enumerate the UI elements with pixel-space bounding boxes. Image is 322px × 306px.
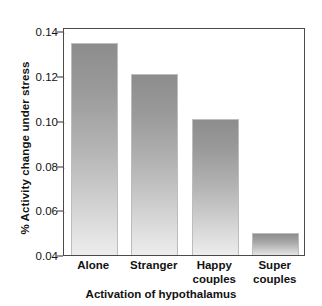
x-axis-title: Activation of hypothalamus (0, 288, 322, 300)
x-tick-label-line: Stranger (124, 259, 185, 273)
y-tick-mark (57, 166, 63, 167)
y-tick-mark (57, 32, 63, 33)
y-tick-label: 0.04 (20, 250, 58, 262)
y-tick-mark (57, 77, 63, 78)
bar-chart: % Activity change under stress 0.040.060… (0, 0, 322, 306)
bar (192, 119, 239, 255)
x-tick-label-line: Super (245, 259, 306, 273)
y-tick-label: 0.10 (20, 116, 58, 128)
bar (131, 74, 178, 255)
x-tick-label: Alone (63, 259, 124, 273)
x-tick-label-line: couples (184, 273, 245, 287)
x-tick-label-line: couples (245, 273, 306, 287)
y-tick-label: 0.14 (20, 26, 58, 38)
x-tick-label-line: Happy (184, 259, 245, 273)
y-tick-label: 0.08 (20, 161, 58, 173)
bars-group (64, 29, 304, 255)
bar (252, 233, 299, 255)
bar (71, 43, 118, 255)
y-tick-label: 0.12 (20, 71, 58, 83)
y-tick-mark (57, 211, 63, 212)
x-tick-label: Supercouples (245, 259, 306, 286)
x-tick-label: Stranger (124, 259, 185, 273)
y-tick-mark (57, 121, 63, 122)
x-tick-label-line: Alone (63, 259, 124, 273)
plot-area (63, 28, 305, 256)
y-tick-mark (57, 256, 63, 257)
x-tick-label: Happycouples (184, 259, 245, 286)
y-axis-tick-labels: 0.040.060.080.100.120.14 (20, 0, 58, 306)
y-tick-label: 0.06 (20, 205, 58, 217)
